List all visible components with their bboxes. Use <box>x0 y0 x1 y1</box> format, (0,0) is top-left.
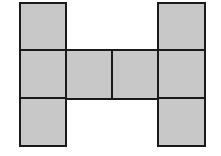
square-c3-r2 <box>157 97 206 147</box>
square-c2-r1 <box>111 49 160 100</box>
square-c1-r1 <box>65 49 114 100</box>
square-c0-r1 <box>19 49 67 100</box>
square-c0-r2 <box>19 97 67 147</box>
square-c0-r0 <box>19 2 67 52</box>
square-c3-r0 <box>157 2 206 52</box>
square-c3-r1 <box>157 49 206 100</box>
